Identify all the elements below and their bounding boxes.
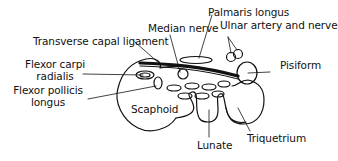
label-flexor-carpi-radialis-2: radialis <box>25 70 85 82</box>
fpl-shape <box>154 77 162 89</box>
label-flexor-pollicis-longus-2: longus <box>12 96 84 108</box>
label-palmaris-longus: Palmaris longus <box>208 6 289 18</box>
palmaris-longus-shape <box>180 57 212 64</box>
triquetrium-outline <box>226 108 246 122</box>
label-lunate: Lunate <box>197 139 232 151</box>
label-scaphoid: Scaphoid <box>131 103 178 115</box>
label-ulnar-artery-nerve: Ulnar artery and nerve <box>220 19 338 31</box>
label-pisiform: Pisiform <box>280 59 321 71</box>
label-transverse-carpal-ligament: Transverse capal ligament <box>33 35 168 47</box>
label-median-nerve: Median nerve <box>148 22 218 34</box>
label-flexor-carpi-radialis-1: Flexor carpi <box>25 58 85 70</box>
scaphoid-outline <box>117 59 188 131</box>
carpal-tunnel-diagram: Median nerve Transverse capal ligament P… <box>0 0 338 161</box>
label-flexor-pollicis-longus-1: Flexor pollicis <box>12 84 84 96</box>
label-triquetrium: Triquetrium <box>247 132 306 144</box>
